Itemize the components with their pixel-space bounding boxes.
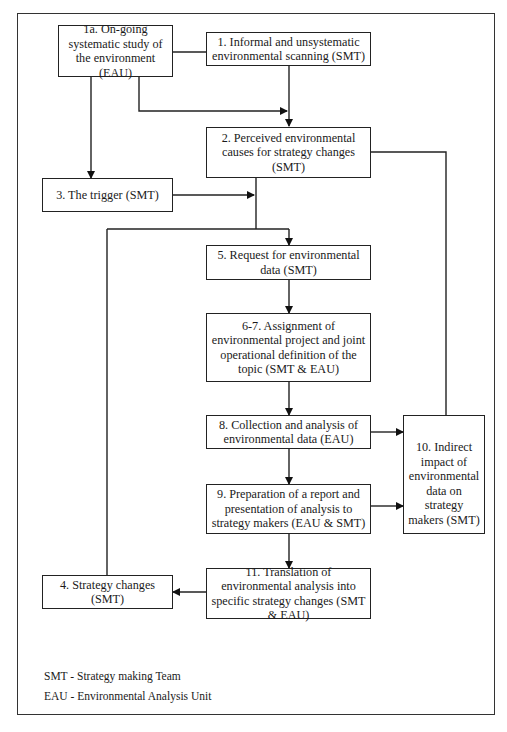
box-2-label: 2. Perceived environmental causes for st… <box>210 131 367 175</box>
box-1a-systematic-study: 1a. On-going systematic study of the env… <box>58 25 173 77</box>
box-5-label: 5. Request for environmental data (SMT) <box>210 248 367 277</box>
box-1-informal-scanning: 1. Informal and unsystematic environment… <box>206 32 371 66</box>
box-6-7-assignment: 6-7. Assignment of environmental project… <box>206 313 371 382</box>
box-9-label: 9. Preparation of a report and presentat… <box>210 487 367 531</box>
box-2-perceived-causes: 2. Perceived environmental causes for st… <box>206 127 371 178</box>
box-5-request-data: 5. Request for environmental data (SMT) <box>206 245 371 280</box>
box-6-7-label: 6-7. Assignment of environmental project… <box>210 319 367 377</box>
box-8-label: 8. Collection and analysis of environmen… <box>210 418 367 447</box>
box-3-label: 3. The trigger (SMT) <box>56 188 159 203</box>
legend-smt: SMT - Strategy making Team <box>44 670 181 682</box>
box-8-collection: 8. Collection and analysis of environmen… <box>206 415 371 449</box>
box-10-indirect-impact: 10. Indirect impact of environmental dat… <box>403 415 485 534</box>
box-11-label: 11. Translation of environmental analysi… <box>210 565 367 623</box>
box-1-label: 1. Informal and unsystematic environment… <box>210 35 367 64</box>
box-4-strategy-changes: 4. Strategy changes (SMT) <box>42 575 173 609</box>
legend-eau: EAU - Environmental Analysis Unit <box>44 690 211 702</box>
box-1a-label: 1a. On-going systematic study of the env… <box>62 22 169 80</box>
box-11-translation: 11. Translation of environmental analysi… <box>206 568 371 619</box>
box-4-label: 4. Strategy changes (SMT) <box>46 578 169 607</box>
box-9-preparation: 9. Preparation of a report and presentat… <box>206 484 371 534</box>
box-3-trigger: 3. The trigger (SMT) <box>42 178 173 212</box>
box-10-label: 10. Indirect impact of environmental dat… <box>407 440 481 527</box>
